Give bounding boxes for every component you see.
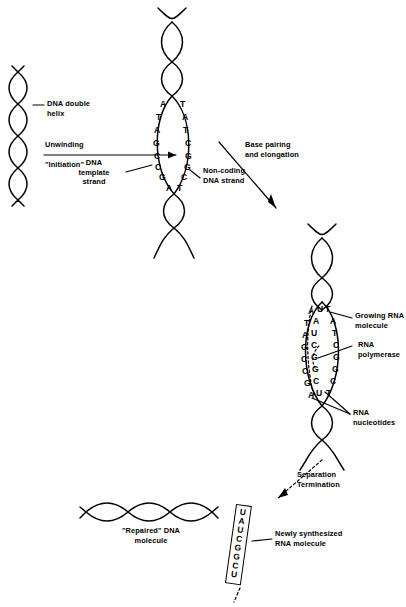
base2-template-6: C xyxy=(302,367,308,376)
label-rna-nucleotides: RNA nucleotides xyxy=(353,408,406,427)
base-template-7: G xyxy=(159,173,166,182)
base2-template-3: A xyxy=(302,331,308,340)
base-noncoding-3: T xyxy=(183,126,188,135)
base2-noncoding-7: C xyxy=(330,377,336,386)
label-rna-polymerase: RNA polymerase xyxy=(358,340,406,359)
dna-double-helix-vertical xyxy=(9,66,27,206)
base2-rna-5: G xyxy=(311,353,318,362)
base2-rna-2: A xyxy=(313,317,319,326)
base-template-4: G xyxy=(153,139,160,148)
label-base-pairing-elongation: Base pairing and elongation xyxy=(245,140,327,159)
label-unwinding: Unwinding xyxy=(45,140,115,150)
base2-template-5: C xyxy=(301,355,307,364)
base2-rna-6: G xyxy=(312,365,319,374)
base2-noncoding-3: T xyxy=(332,329,337,338)
base2-rna-3: U xyxy=(311,329,317,338)
label-dna-double-helix: DNA double helix xyxy=(47,99,127,118)
diagram-artwork xyxy=(0,0,406,607)
base-noncoding-6: G xyxy=(184,163,191,172)
label-repaired-dna-molecule: "Repaired" DNA molecule xyxy=(96,526,206,545)
label-separation-termination: Separation Termination xyxy=(297,470,367,489)
base2-noncoding-4: C xyxy=(333,341,339,350)
base-noncoding-8: T xyxy=(177,184,182,193)
base2-rna-1: U xyxy=(317,305,323,314)
base2-noncoding-8: T xyxy=(326,389,331,398)
base2-noncoding-5: G xyxy=(333,353,340,362)
base-template-3: A xyxy=(154,126,160,135)
base-template-8: A xyxy=(166,184,172,193)
base2-template-7: G xyxy=(304,379,311,388)
base-noncoding-2: A xyxy=(182,113,188,122)
base-noncoding-1: T xyxy=(180,100,185,109)
base2-noncoding-6: G xyxy=(332,365,339,374)
label-dna-template-strand: DNA template strand xyxy=(63,158,125,187)
base2-noncoding-2: A xyxy=(330,317,336,326)
rna-product-base-8: U xyxy=(227,569,242,580)
base2-template-1: A xyxy=(308,307,314,316)
leader-template-strand xyxy=(126,165,152,172)
base-template-6: C xyxy=(155,163,161,172)
base2-template-8: A xyxy=(308,391,314,400)
base2-rna-7: C xyxy=(313,377,319,386)
leader-noncoding-strand xyxy=(190,170,200,178)
label-growing-rna-molecule: Growing RNA molecule xyxy=(355,311,406,330)
base2-rna-8: U xyxy=(316,389,322,398)
label-noncoding-dna-strand: Non-coding DNA strand xyxy=(203,166,275,185)
base-noncoding-4: C xyxy=(185,139,191,148)
leader-rna-nucleotides-a xyxy=(312,398,350,414)
rna-product-tail xyxy=(234,588,240,602)
base-noncoding-5: G xyxy=(185,152,192,161)
base2-noncoding-1: T xyxy=(325,305,330,314)
leader-new-rna xyxy=(252,539,272,541)
base2-template-4: G xyxy=(301,343,308,352)
diagram-canvas: A T A G C C G A T A T C G G C T A T A G … xyxy=(0,0,406,607)
label-newly-synthesized-rna: Newly synthesized RNA molecule xyxy=(275,529,375,548)
base2-template-2: T xyxy=(304,319,309,328)
base-template-2: T xyxy=(156,113,161,122)
base2-rna-4: C xyxy=(311,341,317,350)
base-noncoding-7: C xyxy=(181,173,187,182)
base-template-5: C xyxy=(154,152,160,161)
repaired-dna-helix-horizontal xyxy=(80,503,218,521)
base-template-1: A xyxy=(160,100,166,109)
